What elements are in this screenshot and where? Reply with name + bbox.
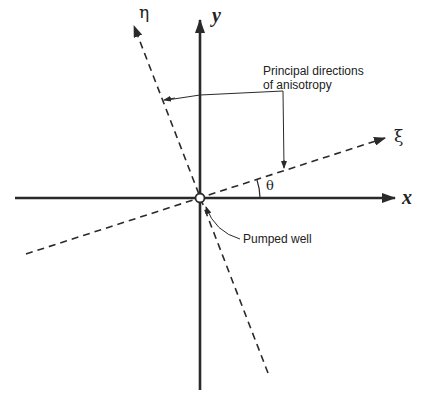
xi-axis-label: ξ bbox=[394, 126, 403, 146]
x-axis-label: x bbox=[402, 186, 412, 209]
theta-arc bbox=[257, 180, 260, 198]
xi-axis bbox=[26, 138, 385, 254]
principal-directions-label: Principal directions of anisotropy bbox=[263, 64, 364, 92]
pumped-well-icon bbox=[196, 194, 205, 203]
pumped-well-callout bbox=[206, 207, 240, 239]
principal-directions-line1: Principal directions bbox=[263, 64, 364, 78]
theta-label: θ bbox=[266, 178, 274, 193]
anisotropy-diagram bbox=[0, 0, 426, 397]
y-axis-label: y bbox=[212, 4, 221, 27]
eta-axis-label: η bbox=[139, 2, 149, 22]
principal-directions-line2: of anisotropy bbox=[263, 78, 364, 92]
pumped-well-label: Pumped well bbox=[243, 232, 312, 246]
